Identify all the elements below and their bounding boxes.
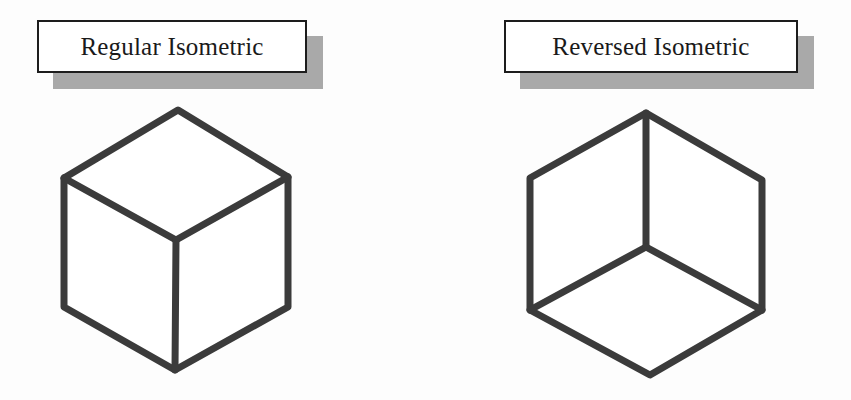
label-frame-regular: Regular Isometric [37, 20, 307, 73]
label-frame-reversed: Reversed Isometric [504, 20, 798, 73]
label-text-regular-isometric: Regular Isometric [80, 34, 263, 59]
cube-reversed-isometric [490, 95, 790, 395]
figure-canvas: Regular Isometric Reversed Isometric [0, 0, 851, 400]
label-box-reversed-isometric: Reversed Isometric [504, 20, 798, 73]
cube-regular-isometric [40, 95, 330, 390]
cube-inner-edge-down-regular [175, 240, 176, 370]
label-text-reversed-isometric: Reversed Isometric [552, 34, 749, 59]
label-box-regular-isometric: Regular Isometric [37, 20, 307, 73]
